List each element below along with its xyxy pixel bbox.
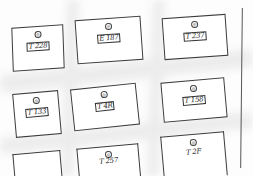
circle-icon: ◎ bbox=[105, 23, 112, 30]
card-8[interactable]: ◎ T 257 bbox=[76, 143, 141, 176]
card-3[interactable]: ◎ T 237 bbox=[162, 14, 229, 60]
sketch-paper: ◎ T 228 ◎ E 187 ◎ T 237 ◎ T 133 ◎ T 4R ◎… bbox=[0, 0, 253, 176]
card-label: T 2F bbox=[185, 148, 203, 156]
circle-icon: ◎ bbox=[33, 97, 41, 105]
card-label: E 187 bbox=[97, 33, 121, 44]
card-label: T 257 bbox=[98, 157, 119, 166]
card-9[interactable]: ◎ T 2F bbox=[160, 131, 228, 176]
circle-icon: ◎ bbox=[100, 91, 108, 99]
card-label: T 237 bbox=[183, 31, 206, 42]
card-2[interactable]: ◎ E 187 bbox=[75, 16, 144, 64]
circle-icon: ◎ bbox=[190, 139, 198, 147]
circle-icon: ◎ bbox=[191, 21, 198, 28]
card-label: T 158 bbox=[182, 95, 205, 106]
card-5[interactable]: ◎ T 4R bbox=[70, 83, 140, 132]
card-label: T 133 bbox=[25, 107, 48, 118]
card-label: T 228 bbox=[26, 41, 49, 52]
card-7[interactable]: ◎ bbox=[12, 150, 63, 176]
card-1[interactable]: ◎ T 228 bbox=[11, 24, 64, 72]
card-4[interactable]: ◎ T 133 bbox=[12, 90, 62, 138]
circle-icon: ◎ bbox=[190, 85, 198, 93]
card-6[interactable]: ◎ T 158 bbox=[160, 77, 227, 122]
card-label: T 4R bbox=[95, 101, 115, 112]
circle-icon: ◎ bbox=[34, 31, 41, 38]
right-border-line bbox=[240, 8, 243, 168]
